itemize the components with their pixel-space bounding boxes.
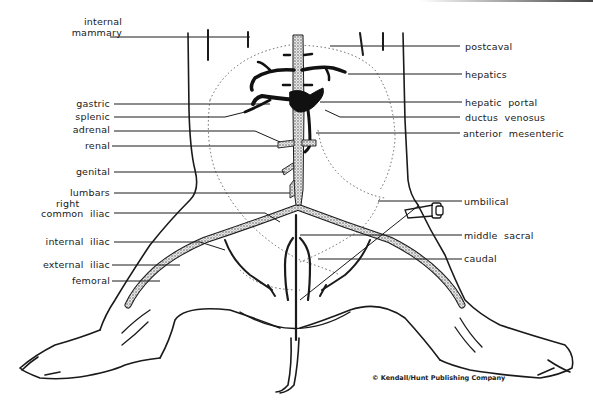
label-right-common-iliac: right common iliac bbox=[20, 199, 110, 219]
caudal-veins bbox=[285, 215, 310, 340]
label-anterior-mesenteric: anterior mesenteric bbox=[463, 128, 564, 139]
label-splenic: splenic bbox=[40, 111, 110, 122]
label-adrenal: adrenal bbox=[40, 124, 110, 135]
label-internal-mammary: internal mammary bbox=[40, 16, 122, 38]
label-genital: genital bbox=[40, 166, 110, 177]
label-renal: renal bbox=[40, 140, 110, 151]
label-line: internal bbox=[40, 16, 122, 27]
label-external-iliac: external iliac bbox=[10, 259, 110, 270]
label-line: common iliac bbox=[20, 209, 110, 219]
label-ductus-venosus: ductus venosus bbox=[465, 112, 545, 123]
label-middle-sacral: middle sacral bbox=[464, 230, 534, 241]
label-internal-iliac: internal iliac bbox=[10, 236, 110, 247]
label-gastric: gastric bbox=[40, 98, 110, 109]
label-hepatics: hepatics bbox=[465, 69, 507, 80]
label-postcaval: postcaval bbox=[465, 41, 512, 52]
label-hepatic-portal: hepatic portal bbox=[465, 97, 537, 108]
label-line: mammary bbox=[40, 27, 122, 38]
internal-iliac-branches bbox=[225, 240, 370, 296]
label-umbilical: umbilical bbox=[464, 196, 509, 207]
label-lumbars: lumbars bbox=[40, 187, 110, 198]
label-caudal: caudal bbox=[464, 253, 497, 264]
copyright-notice: © Kendall/Hunt Publishing Company bbox=[372, 374, 505, 382]
label-femoral: femoral bbox=[40, 275, 110, 286]
